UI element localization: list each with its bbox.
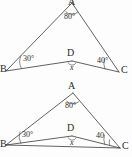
- geometry-figure-page: A B C D 80° 30° 40° x: [0, 0, 132, 157]
- vertex-label-a: A: [68, 81, 75, 91]
- vertex-label-d: D: [67, 48, 74, 58]
- segment-dc: [72, 61, 119, 72]
- angle-label-d-x: x: [70, 139, 74, 147]
- segment-ac: [72, 3, 119, 72]
- angle-arc-b: [20, 56, 22, 69]
- vertex-label-b: B: [0, 64, 7, 74]
- angle-label-d-x: x: [70, 64, 74, 72]
- vertex-label-b: B: [0, 139, 7, 149]
- angle-label-c: 40°: [97, 57, 108, 65]
- segment-ab: [6, 3, 72, 71]
- triangle-diagram-bottom: A B C D 80° 30° 40 x: [0, 79, 132, 157]
- vertex-label-c: C: [121, 65, 128, 75]
- vertex-label-c: C: [122, 141, 129, 151]
- angle-label-a: 80°: [65, 102, 76, 110]
- angle-label-a: 80°: [64, 13, 75, 21]
- angle-label-b: 30°: [23, 55, 34, 63]
- triangle-drawing-bottom: [0, 79, 132, 157]
- angle-label-c: 40: [96, 132, 104, 140]
- segment-bc: [6, 145, 120, 148]
- triangle-diagram-top: A B C D 80° 30° 40° x: [0, 0, 132, 78]
- vertex-label-d: D: [67, 123, 74, 133]
- angle-arc-c-inner: [109, 140, 110, 147]
- vertex-label-a: A: [68, 0, 75, 7]
- angle-label-b: 30°: [22, 131, 33, 139]
- segment-bd: [6, 61, 72, 71]
